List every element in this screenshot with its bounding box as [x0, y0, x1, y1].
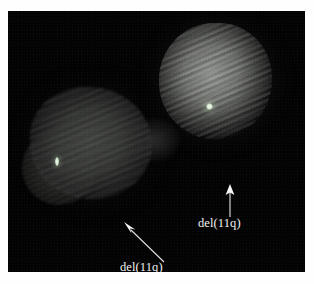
figure-page: del(11q) del(11q) — [0, 0, 314, 284]
scanline-texture-secondary — [159, 23, 272, 139]
lower-left-nucleus — [30, 87, 152, 199]
micrograph-panel: del(11q) del(11q) — [8, 11, 305, 272]
annotation-label-right: del(11q) — [198, 216, 241, 231]
scanline-texture — [30, 87, 152, 199]
upper-right-nucleus — [159, 23, 272, 139]
arrow-up-icon — [214, 183, 248, 219]
scanline-texture — [159, 23, 272, 139]
annotation-label-left: del(11q) — [120, 260, 163, 272]
fish-signal-upper-nucleus — [206, 103, 213, 110]
fish-signal-left-nucleus — [55, 157, 59, 166]
scanline-texture-secondary — [30, 87, 152, 199]
